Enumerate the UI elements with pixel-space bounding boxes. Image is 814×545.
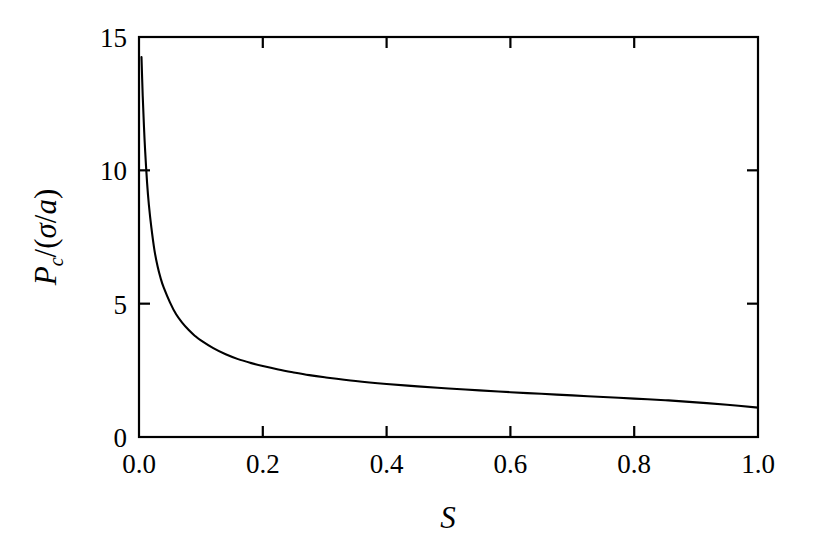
y-tick-label: 0 — [114, 423, 128, 453]
x-axis-title: S — [440, 500, 456, 535]
y-axis-title-divider: /( — [28, 238, 63, 257]
x-tick-label: 1.0 — [741, 449, 775, 479]
y-axis-title: Pc/(σ/a) — [28, 189, 67, 287]
plot-canvas: 0.00.20.40.60.81.0 051015 S Pc/(σ/a) — [0, 0, 814, 545]
y-tick-label: 15 — [100, 23, 127, 53]
chart-figure: 0.00.20.40.60.81.0 051015 S Pc/(σ/a) — [0, 0, 814, 545]
y-axis-title-main: P — [28, 266, 63, 286]
y-tick-label: 10 — [100, 156, 127, 186]
x-tick-label: 0.6 — [494, 449, 528, 479]
svg-text:Pc/(σ/a): Pc/(σ/a) — [28, 189, 67, 287]
x-tick-label: 0.8 — [617, 449, 651, 479]
x-tick-label: 0.2 — [246, 449, 280, 479]
y-axis-title-subscript: c — [45, 257, 67, 266]
y-axis-title-close: ) — [28, 189, 63, 199]
y-tick-label: 5 — [114, 290, 128, 320]
x-tick-label: 0.4 — [370, 449, 404, 479]
y-axis-title-a: a — [28, 199, 63, 215]
x-tick-label: 0.0 — [122, 449, 156, 479]
